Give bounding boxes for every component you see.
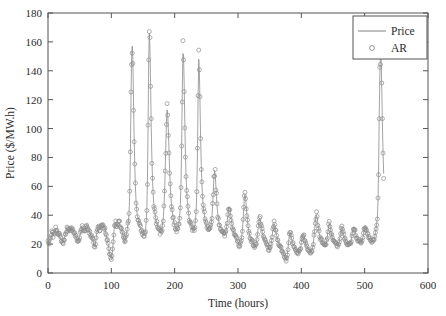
- y-tick-label: 100: [26, 123, 43, 135]
- legend-label-ar: AR: [391, 42, 407, 54]
- x-tick-label: 300: [230, 279, 247, 291]
- price-ar-chart-figure: 020406080100120140160180 010020030040050…: [0, 0, 446, 316]
- y-tick-label: 120: [26, 94, 43, 106]
- y-tick-label: 80: [31, 151, 43, 163]
- x-tick-label: 200: [166, 279, 183, 291]
- legend-box: [353, 16, 427, 59]
- x-tick-label: 100: [103, 279, 120, 291]
- legend-label-price: Price: [391, 25, 415, 37]
- x-tick-label: 0: [45, 279, 51, 291]
- y-tick-label: 0: [37, 267, 43, 279]
- x-axis-title: Time (hours): [208, 297, 268, 310]
- y-tick-label: 40: [31, 209, 43, 221]
- chart-canvas: 020406080100120140160180 010020030040050…: [0, 0, 446, 316]
- x-tick-label: 600: [420, 279, 437, 291]
- y-tick-label: 180: [26, 7, 43, 19]
- y-tick-label: 20: [31, 238, 43, 250]
- x-tick-label: 400: [293, 279, 310, 291]
- y-axis-title: Price ($/MW.h): [4, 107, 17, 179]
- x-tick-label: 500: [356, 279, 373, 291]
- y-tick-label: 60: [31, 180, 43, 192]
- y-tick-label: 160: [26, 36, 43, 48]
- chart-legend[interactable]: Price AR: [353, 16, 427, 59]
- y-tick-label: 140: [26, 65, 43, 77]
